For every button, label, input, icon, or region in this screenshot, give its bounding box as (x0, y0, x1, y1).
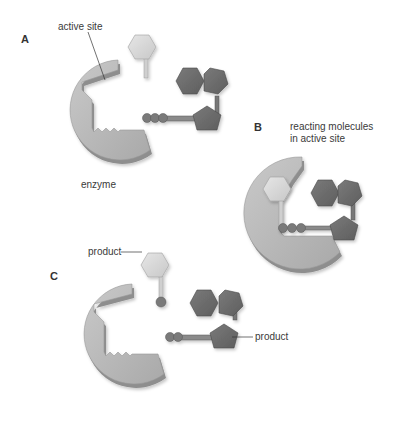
enzyme-label: enzyme (81, 179, 116, 191)
panel-label-b: B (254, 121, 262, 133)
product-label-1: product (88, 246, 121, 258)
light-substrate-a (128, 35, 156, 78)
dark-substrate-a (143, 68, 229, 130)
enzyme-c (84, 284, 166, 388)
panel-label-a: A (21, 33, 29, 45)
enzyme-diagram (0, 0, 394, 425)
panel-c (84, 252, 253, 388)
enzyme-b (244, 157, 342, 273)
panel-a (70, 32, 228, 164)
product-label-2: product (255, 331, 288, 343)
panel-label-c: C (50, 270, 58, 282)
active-site-label: active site (58, 21, 102, 33)
caption-in-active-site: in active site (290, 133, 345, 145)
caption-reacting-molecules: reacting molecules (290, 121, 373, 133)
light-product-c (141, 253, 169, 307)
panel-b (244, 157, 362, 273)
dark-product-c (166, 290, 244, 348)
enzyme-a (70, 60, 152, 164)
